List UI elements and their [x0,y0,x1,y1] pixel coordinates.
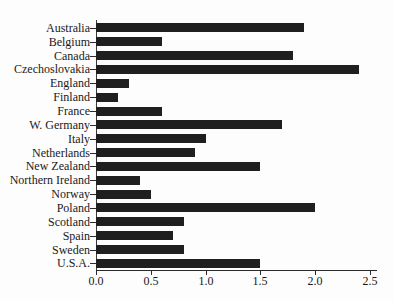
x-tick-label-2.0: 2.0 [300,275,330,288]
category-label-poland: Poland [0,202,90,214]
bar-czechoslovakia [96,65,359,74]
bar-australia [96,23,304,32]
category-label-new-zealand: New Zealand [0,160,90,172]
bar-poland [96,203,315,212]
category-label-norway: Norway [0,188,90,200]
x-tick-label-1.5: 1.5 [245,275,275,288]
bar-netherlands [96,148,195,157]
category-label-netherlands: Netherlands [0,147,90,159]
plot-area: AustraliaBelgiumCanadaCzechoslovakiaEngl… [0,0,394,301]
category-label-czechoslovakia: Czechoslovakia [0,63,90,75]
x-tick-label-0.5: 0.5 [136,275,166,288]
bar-finland [96,93,118,102]
x-tick-label-1.0: 1.0 [191,275,221,288]
category-label-u-s-a: U.S.A. [0,257,90,269]
x-axis-line [96,270,377,271]
category-label-belgium: Belgium [0,36,90,48]
category-label-sweden: Sweden [0,244,90,256]
bar-chart-figure: AustraliaBelgiumCanadaCzechoslovakiaEngl… [0,0,394,301]
bar-england [96,79,129,88]
bar-northern-ireland [96,176,140,185]
bar-belgium [96,37,162,46]
bar-new-zealand [96,162,260,171]
category-label-france: France [0,105,90,117]
bar-u-s-a [96,259,260,268]
x-tick-label-0.0: 0.0 [81,275,111,288]
category-label-australia: Australia [0,22,90,34]
bar-sweden [96,245,184,254]
bar-w-germany [96,120,282,129]
category-label-w-germany: W. Germany [0,119,90,131]
category-label-finland: Finland [0,91,90,103]
bar-italy [96,134,206,143]
bar-scotland [96,217,184,226]
bar-france [96,107,162,116]
bar-canada [96,51,293,60]
x-tick-label-2.5: 2.5 [355,275,385,288]
category-label-canada: Canada [0,50,90,62]
bar-norway [96,190,151,199]
category-label-scotland: Scotland [0,216,90,228]
category-label-england: England [0,77,90,89]
category-label-northern-ireland: Northern Ireland [0,174,90,186]
bar-spain [96,231,173,240]
category-label-italy: Italy [0,133,90,145]
category-label-spain: Spain [0,230,90,242]
